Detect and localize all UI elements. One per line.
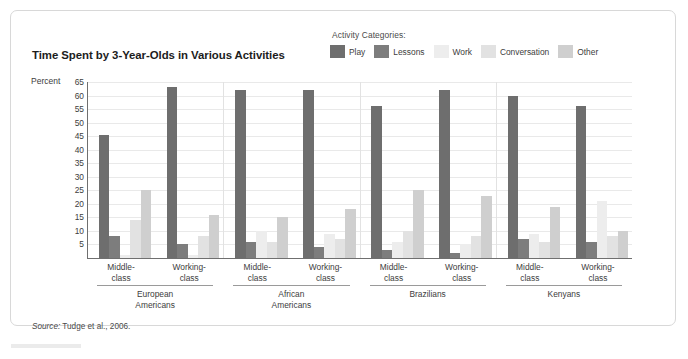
- bar: [130, 220, 141, 258]
- subgroup-label: Working-class: [445, 262, 478, 283]
- subgroup-label: Working-class: [173, 262, 206, 283]
- bar: [324, 234, 335, 258]
- bar: [481, 196, 492, 258]
- bar: [508, 96, 519, 258]
- bar: [256, 231, 267, 258]
- subgroup-label-line: Working-: [309, 262, 342, 273]
- y-tick-label: 55: [44, 104, 84, 114]
- bar: [382, 250, 393, 258]
- bar: [277, 217, 288, 258]
- y-tick-label: 5: [44, 239, 84, 249]
- bar: [246, 242, 257, 258]
- bar: [392, 242, 403, 258]
- group-rule: [370, 285, 486, 286]
- y-tick-label: 15: [44, 212, 84, 222]
- legend-item: Lessons: [374, 45, 424, 58]
- group-label: Brazilians: [409, 289, 445, 300]
- legend-label: Play: [349, 47, 365, 57]
- subgroup-label-line: Working-: [445, 262, 478, 273]
- legend: Activity Categories: PlayLessonsWorkConv…: [330, 30, 660, 58]
- group-label-line: Kenyans: [548, 289, 581, 300]
- y-tick-label: 25: [44, 185, 84, 195]
- bar: [267, 242, 278, 258]
- bar: [198, 236, 209, 258]
- subgroup-label: Middle-class: [244, 262, 271, 283]
- bar: [460, 244, 471, 258]
- legend-item: Conversation: [481, 45, 549, 58]
- bar: [403, 231, 414, 258]
- bar: [413, 190, 424, 258]
- subgroup-label: Middle-class: [380, 262, 407, 283]
- legend-item: Work: [434, 45, 472, 58]
- x-axis-subgroup-labels: Middle-classWorking-classMiddle-classWor…: [87, 262, 632, 286]
- subgroup-label-line: Middle-: [107, 262, 134, 273]
- subgroup-label-line: class: [309, 273, 342, 284]
- subgroup-label-line: Working-: [173, 262, 206, 273]
- legend-items: PlayLessonsWorkConversationOther: [330, 45, 660, 58]
- bar: [99, 135, 110, 258]
- y-tick-label: 40: [44, 145, 84, 155]
- subgroup-label: Middle-class: [516, 262, 543, 283]
- y-axis-line: [87, 82, 88, 258]
- bar: [141, 190, 152, 258]
- y-tick-label: 65: [44, 77, 84, 87]
- bar: [371, 106, 382, 258]
- y-tick-label: 50: [44, 118, 84, 128]
- subgroup-label-line: class: [107, 273, 134, 284]
- group-label-line: African: [272, 289, 312, 300]
- group-label: AfricanAmericans: [272, 289, 312, 310]
- y-tick-label: 45: [44, 131, 84, 141]
- footer-accent-bar: [11, 344, 81, 348]
- bar: [235, 90, 246, 258]
- source-prefix: Source:: [32, 322, 60, 331]
- source-note: Source: Tudge et al., 2006.: [32, 322, 130, 331]
- legend-label: Work: [453, 47, 472, 57]
- bar: [314, 247, 325, 258]
- subgroup-label-line: Middle-: [244, 262, 271, 273]
- legend-swatch-conversation: [481, 45, 496, 58]
- legend-item: Other: [558, 45, 598, 58]
- source-text: Tudge et al., 2006.: [62, 322, 130, 331]
- bar: [529, 234, 540, 258]
- group-label: Kenyans: [548, 289, 581, 300]
- legend-title: Activity Categories:: [330, 30, 660, 40]
- legend-swatch-other: [558, 45, 573, 58]
- chart-title: Time Spent by 3-Year-Olds in Various Act…: [32, 49, 285, 61]
- subgroup-label-line: class: [244, 273, 271, 284]
- bar: [109, 236, 120, 258]
- bar: [209, 215, 220, 258]
- bar: [177, 244, 188, 258]
- bars-layer: [87, 82, 632, 258]
- subgroup-label: Working-class: [309, 262, 342, 283]
- bar: [576, 106, 587, 258]
- figure-root: Activity Categories: PlayLessonsWorkConv…: [0, 0, 688, 359]
- subgroup-label-line: class: [173, 273, 206, 284]
- subgroup-label-line: Middle-: [380, 262, 407, 273]
- y-tick-label: 60: [44, 91, 84, 101]
- subgroup-label-line: class: [516, 273, 543, 284]
- group-label-line: Americans: [135, 300, 175, 311]
- y-tick-label: 30: [44, 172, 84, 182]
- group-label-line: Americans: [272, 300, 312, 311]
- bar: [518, 239, 529, 258]
- subgroup-label-line: class: [445, 273, 478, 284]
- subgroup-label: Working-class: [581, 262, 614, 283]
- bar: [550, 207, 561, 258]
- bar: [167, 87, 178, 258]
- y-tick-label: 35: [44, 158, 84, 168]
- bar: [539, 242, 550, 258]
- subgroup-label-line: Middle-: [516, 262, 543, 273]
- bar: [439, 90, 450, 258]
- y-tick-label: 10: [44, 226, 84, 236]
- group-label: EuropeanAmericans: [135, 289, 175, 310]
- bar: [618, 231, 629, 258]
- legend-label: Conversation: [500, 47, 549, 57]
- legend-swatch-lessons: [374, 45, 389, 58]
- y-axis-ticks: 6560555045403530252015105: [40, 82, 84, 258]
- subgroup-label-line: class: [581, 273, 614, 284]
- subgroup-label-line: Working-: [581, 262, 614, 273]
- legend-swatch-work: [434, 45, 449, 58]
- group-rule: [233, 285, 349, 286]
- group-label-line: European: [135, 289, 175, 300]
- bar: [303, 90, 314, 258]
